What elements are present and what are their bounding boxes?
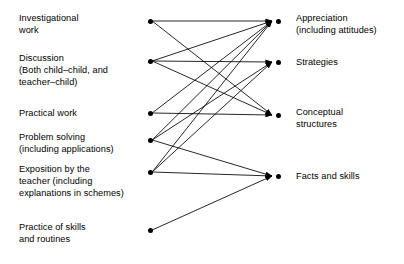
node-dot-conceptual-structures[interactable] <box>276 113 281 118</box>
node-dot-strategies[interactable] <box>276 60 281 65</box>
edge-discussion-to-conceptual-structures <box>152 61 272 115</box>
edge-exposition-by-teacher-to-strategies <box>152 62 272 172</box>
node-label-problem-solving: Problem solving (including applications) <box>19 131 144 155</box>
edge-discussion-to-strategies <box>152 61 272 62</box>
node-dot-practical-work[interactable] <box>148 111 153 116</box>
node-label-appreciation: Appreciation (including attitudes) <box>296 12 400 36</box>
node-label-investigational-work: Investigational work <box>19 12 144 36</box>
node-label-exposition-by-teacher: Exposition by the teacher (including exp… <box>19 163 144 200</box>
edge-discussion-to-appreciation <box>152 21 272 61</box>
edge-exposition-by-teacher-to-facts-and-skills <box>152 172 272 176</box>
node-label-practical-work: Practical work <box>19 107 144 119</box>
edge-practical-work-to-conceptual-structures <box>152 113 272 115</box>
edge-problem-solving-to-facts-and-skills <box>152 140 272 176</box>
diagram-edges <box>152 21 272 230</box>
node-label-strategies: Strategies <box>296 56 400 68</box>
node-dot-exposition-by-teacher[interactable] <box>148 170 153 175</box>
edge-problem-solving-to-appreciation <box>152 21 272 140</box>
node-dot-facts-and-skills[interactable] <box>276 174 281 179</box>
diagram-canvas: Investigational workDiscussion (Both chi… <box>0 0 404 264</box>
node-label-discussion: Discussion (Both child–child, and teache… <box>19 52 144 89</box>
node-label-practice-of-skills: Practice of skills and routines <box>19 221 144 245</box>
edge-exposition-by-teacher-to-appreciation <box>152 21 272 172</box>
node-dot-appreciation[interactable] <box>276 19 281 24</box>
edge-practice-of-skills-to-facts-and-skills <box>152 176 272 230</box>
node-dot-investigational-work[interactable] <box>148 19 153 24</box>
node-label-facts-and-skills: Facts and skills <box>296 170 400 182</box>
node-label-conceptual-structures: Conceptual structures <box>296 106 400 130</box>
node-dot-problem-solving[interactable] <box>148 138 153 143</box>
node-dot-discussion[interactable] <box>148 59 153 64</box>
node-dot-practice-of-skills[interactable] <box>148 228 153 233</box>
